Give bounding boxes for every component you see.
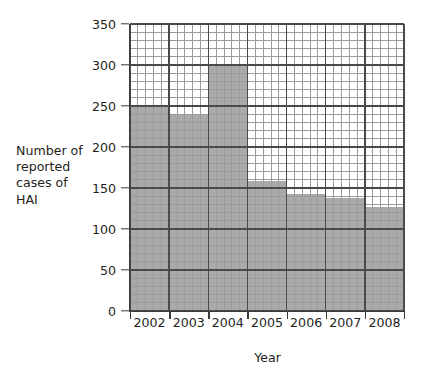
x-tick-label-2002: 2002	[134, 315, 166, 330]
y-tick-mark	[121, 269, 129, 270]
bar-2002	[130, 106, 169, 311]
x-tick-label-2008: 2008	[368, 315, 400, 330]
bar-2003	[169, 114, 208, 311]
x-tick-mark	[326, 311, 327, 319]
y-tick-label: 150	[72, 181, 116, 196]
x-axis-title: Year	[130, 350, 405, 365]
y-tick-mark	[121, 64, 129, 65]
y-tick-mark	[121, 146, 129, 147]
y-axis-line	[129, 24, 130, 312]
x-tick-mark	[247, 311, 248, 319]
y-tick-label: 100	[72, 222, 116, 237]
x-tick-mark	[404, 311, 405, 319]
bar-2004	[208, 65, 247, 311]
x-tick-label-2007: 2007	[329, 315, 361, 330]
y-tick-label: 50	[72, 263, 116, 278]
x-tick-label-2003: 2003	[173, 315, 205, 330]
y-tick-mark	[121, 105, 129, 106]
x-tick-mark	[130, 311, 131, 319]
y-tick-mark	[121, 310, 129, 311]
bars-layer	[130, 24, 404, 311]
x-tick-mark	[208, 311, 209, 319]
bar-chart: Number of reported cases of HAI Year 050…	[0, 0, 427, 379]
y-tick-label: 300	[72, 58, 116, 73]
bar-2007	[326, 198, 365, 311]
x-tick-mark	[169, 311, 170, 319]
y-tick-label: 200	[72, 140, 116, 155]
x-tick-mark	[365, 311, 366, 319]
y-tick-mark	[121, 228, 129, 229]
y-tick-mark	[121, 23, 129, 24]
x-tick-label-2004: 2004	[212, 315, 244, 330]
plot-area	[130, 24, 404, 311]
y-tick-label: 250	[72, 99, 116, 114]
bar-2006	[287, 194, 326, 311]
y-tick-label: 0	[72, 304, 116, 319]
y-tick-mark	[121, 187, 129, 188]
x-tick-label-2006: 2006	[290, 315, 322, 330]
x-tick-mark	[287, 311, 288, 319]
y-tick-label: 350	[72, 17, 116, 32]
bar-2005	[247, 181, 286, 311]
bar-2008	[365, 207, 404, 311]
x-tick-label-2005: 2005	[251, 315, 283, 330]
